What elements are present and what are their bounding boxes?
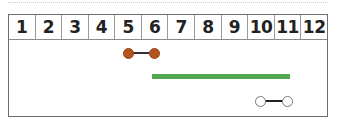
month-timeline-grid: 1 2 3 4 5 6 7 8 9 10 11 12 <box>8 14 328 117</box>
column-4: 4 <box>89 15 116 39</box>
white-dumbbell-start-dot <box>255 96 266 107</box>
green-bar <box>152 74 291 79</box>
column-3: 3 <box>62 15 89 39</box>
column-header-row: 1 2 3 4 5 6 7 8 9 10 11 12 <box>9 15 327 40</box>
column-11: 11 <box>275 15 302 39</box>
white-dumbbell-end-dot <box>282 96 293 107</box>
column-6: 6 <box>142 15 169 39</box>
column-10: 10 <box>248 15 275 39</box>
top-dotted-rule <box>8 2 328 3</box>
column-8: 8 <box>195 15 222 39</box>
brown-dumbbell-end-dot <box>149 48 160 59</box>
column-1: 1 <box>9 15 36 39</box>
column-7: 7 <box>168 15 195 39</box>
column-2: 2 <box>36 15 63 39</box>
column-9: 9 <box>222 15 249 39</box>
column-12: 12 <box>301 15 327 39</box>
timeline-track <box>9 39 327 117</box>
brown-dumbbell-start-dot <box>123 48 134 59</box>
column-5: 5 <box>115 15 142 39</box>
